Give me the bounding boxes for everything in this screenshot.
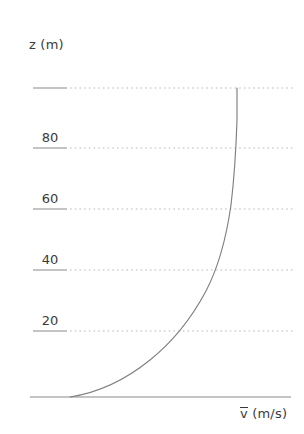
x-axis-label-variable: v [240, 406, 248, 421]
wind-profile-figure: z (m) v (m/s) 80 60 40 20 [0, 0, 304, 434]
tick-marks-group [33, 88, 67, 331]
x-axis-label: v (m/s) [240, 406, 287, 421]
y-tick-label-80: 80 [32, 130, 68, 145]
y-tick-label-20: 20 [32, 313, 68, 328]
velocity-profile-curve [70, 88, 237, 397]
y-tick-label-60: 60 [32, 191, 68, 206]
y-axis-label: z (m) [29, 37, 64, 52]
gridlines-group [70, 88, 294, 331]
plot-canvas [0, 0, 304, 434]
y-tick-label-40: 40 [32, 252, 68, 267]
x-axis-label-units: (m/s) [248, 406, 287, 421]
